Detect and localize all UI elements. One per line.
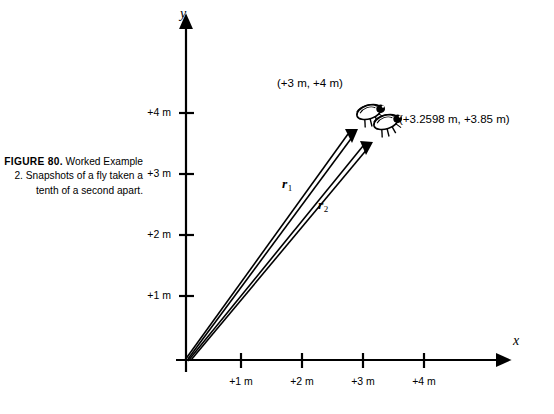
vector-label-r2-subscript: 2	[324, 204, 329, 214]
x-tick-label-1: +1 m	[211, 375, 271, 387]
x-tick-label-2: +2 m	[272, 375, 332, 387]
x-axis-label: x	[513, 333, 519, 349]
y-tick-label-3: +3 m	[113, 167, 171, 179]
vector-label-r1: r1	[282, 176, 292, 192]
coordinate-plot	[0, 0, 554, 414]
y-tick-label-1: +1 m	[113, 289, 171, 301]
vector-label-r1-subscript: 1	[288, 183, 293, 193]
vector-label-r2-symbol: r	[318, 197, 323, 212]
vector-r1	[185, 129, 358, 360]
x-tick-label-4: +4 m	[394, 375, 454, 387]
vector-label-r1-symbol: r	[282, 176, 287, 191]
y-tick-label-4: +4 m	[113, 106, 171, 118]
fly-1-coordinate-label: (+3 m, +4 m)	[277, 77, 343, 89]
x-tick-label-3: +3 m	[333, 375, 393, 387]
fly-2-coordinate-label: (+3.2598 m, +3.85 m)	[399, 113, 510, 125]
figure-caption-title: FIGURE 80.	[4, 156, 62, 167]
vector-label-r2: r2	[318, 197, 328, 213]
y-axis-label: y	[180, 6, 186, 22]
figure-container: FIGURE 80. Worked Example 2. Snapshots o…	[0, 0, 554, 414]
y-tick-label-2: +2 m	[113, 228, 171, 240]
vector-r2	[188, 141, 373, 361]
